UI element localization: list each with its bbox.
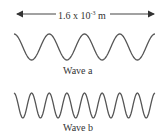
- wavelength-label: 1.6 x 10-3 m: [56, 8, 108, 21]
- wave-diagram: 1.6 x 10-3 m Wave a Wave b: [0, 0, 165, 138]
- wave-a-label: Wave a: [63, 66, 92, 76]
- wave-b-label: Wave b: [63, 123, 93, 133]
- wave-b-curve: [14, 93, 155, 118]
- wave-a-curve: [14, 34, 155, 60]
